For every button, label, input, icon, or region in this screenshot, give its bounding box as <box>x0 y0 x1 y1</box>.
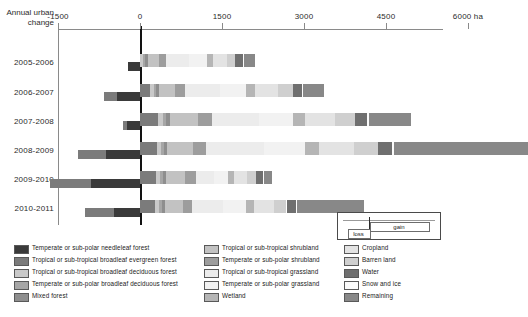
bar-segment-loss <box>104 92 117 101</box>
x-tick-label: 0 <box>115 12 165 21</box>
legend-item[interactable]: Barren land <box>344 255 454 267</box>
legend-swatch <box>14 281 29 290</box>
bar-row-loss <box>0 121 447 130</box>
legend-swatch <box>14 245 29 254</box>
legend-label: Mixed forest <box>32 290 68 302</box>
legend: Temperate or sub-polar needleleaf forest… <box>14 243 439 305</box>
legend-label: Wetland <box>222 290 246 302</box>
bar-row-loss <box>0 92 447 101</box>
bar-segment-loss <box>117 92 140 101</box>
legend-label: Temperate or sub-polar broadleaf deciduo… <box>32 278 178 290</box>
x-tick-mark <box>304 23 305 29</box>
legend-label: Temperate or sub-polar needleleaf forest <box>32 242 149 254</box>
legend-label: Tropical or sub-tropical broadleaf decid… <box>32 266 177 278</box>
legend-label: Water <box>362 266 379 278</box>
legend-label: Barren land <box>362 254 396 266</box>
legend-label: Temperate or sub-polar shrubland <box>222 254 320 266</box>
legend-label: Snow and ice <box>362 278 401 290</box>
legend-swatch <box>204 245 219 254</box>
x-tick-label: 4500 <box>361 12 411 21</box>
x-tick-label: 1500 <box>197 12 247 21</box>
legend-swatch <box>14 269 29 278</box>
bar-row-loss <box>0 179 447 188</box>
bar-segment-loss <box>123 121 128 130</box>
inset-loss-label: loss <box>348 230 369 238</box>
bar-segment-loss <box>128 62 140 71</box>
legend-swatch <box>204 293 219 302</box>
x-axis-line <box>58 29 443 30</box>
bar-row-loss <box>0 62 447 71</box>
x-tick-mark <box>468 23 469 29</box>
legend-swatch <box>14 293 29 302</box>
bar-row-loss <box>0 150 447 159</box>
legend-column: CroplandBarren landWaterSnow and iceRema… <box>344 243 454 303</box>
legend-item[interactable]: Mixed forest <box>14 291 209 303</box>
legend-label: Tropical or sub-tropical shrubland <box>222 242 319 254</box>
x-tick-mark <box>58 23 59 29</box>
bar-segment-loss <box>85 208 113 217</box>
inset-gain-label: gain <box>370 223 428 231</box>
legend-swatch <box>204 269 219 278</box>
x-tick-label: -1500 <box>33 12 83 21</box>
legend-swatch <box>344 293 359 302</box>
x-tick-label: 6000 ha <box>443 12 493 21</box>
legend-item[interactable]: Wetland <box>204 291 354 303</box>
legend-item[interactable]: Remaining <box>344 291 454 303</box>
legend-column: Temperate or sub-polar needleleaf forest… <box>14 243 209 303</box>
x-tick-mark <box>222 23 223 29</box>
legend-label: Tropical or sub-tropical broadleaf everg… <box>32 254 177 266</box>
loss-gain-key: gain loss <box>337 212 441 240</box>
inset-axis-line <box>343 220 435 221</box>
x-tick-mark <box>386 23 387 29</box>
bar-segment-loss <box>127 121 140 130</box>
bar-segment-loss <box>50 179 90 188</box>
legend-label: Cropland <box>362 242 388 254</box>
legend-swatch <box>204 257 219 266</box>
legend-swatch <box>344 245 359 254</box>
x-tick-mark <box>140 23 141 29</box>
legend-swatch <box>344 269 359 278</box>
legend-item[interactable]: Snow and ice <box>344 279 454 291</box>
legend-swatch <box>344 281 359 290</box>
bar-segment-loss <box>114 208 140 217</box>
x-tick-label: 3000 <box>279 12 329 21</box>
legend-label: Temperate or sub-polar grassland <box>222 278 319 290</box>
bar-segment-loss <box>106 150 140 159</box>
bar-segment-loss <box>78 150 105 159</box>
bar-segment-loss <box>91 179 140 188</box>
legend-label: Tropical or sub-tropical grassland <box>222 266 318 278</box>
legend-swatch <box>14 257 29 266</box>
legend-swatch <box>204 281 219 290</box>
legend-column: Tropical or sub-tropical shrublandTemper… <box>204 243 354 303</box>
legend-swatch <box>344 257 359 266</box>
legend-label: Remaining <box>362 290 393 302</box>
legend-item[interactable]: Cropland <box>344 243 454 255</box>
